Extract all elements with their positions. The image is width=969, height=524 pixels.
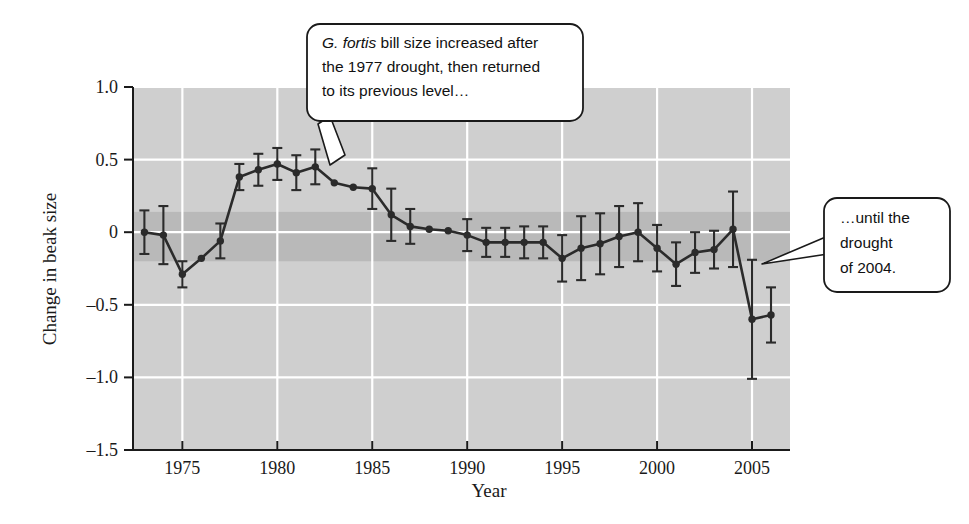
y-tick-label: –1.0 xyxy=(86,367,119,387)
data-point xyxy=(312,163,319,170)
data-point xyxy=(520,239,527,246)
y-tick-label: 0.5 xyxy=(96,150,119,170)
data-point xyxy=(388,211,395,218)
data-point xyxy=(445,227,452,234)
y-axis-title: Change in beak size xyxy=(39,193,60,345)
x-tick-label: 2000 xyxy=(639,458,675,478)
y-tick-label: –1.5 xyxy=(86,440,119,460)
data-point xyxy=(236,173,243,180)
data-point xyxy=(331,179,338,186)
y-axis-tick-labels: 1.00.50–0.5–1.0–1.5 xyxy=(86,77,119,460)
y-tick-label: 1.0 xyxy=(96,77,119,97)
data-point xyxy=(501,239,508,246)
data-point xyxy=(463,231,470,238)
chart-svg: 1.00.50–0.5–1.0–1.5 19751980198519901995… xyxy=(0,0,969,524)
data-point xyxy=(634,229,641,236)
data-point xyxy=(615,233,622,240)
callout1-line3: to its previous level… xyxy=(322,82,469,99)
data-point xyxy=(729,226,736,233)
plot-panel xyxy=(133,87,790,450)
data-point xyxy=(558,255,565,262)
data-point xyxy=(539,239,546,246)
data-point xyxy=(369,185,376,192)
callout2-line2: drought xyxy=(840,234,893,251)
x-tick-label: 1980 xyxy=(259,458,295,478)
x-axis-title: Year xyxy=(471,480,507,501)
data-point xyxy=(482,239,489,246)
data-point xyxy=(653,244,660,251)
data-point xyxy=(274,160,281,167)
data-point xyxy=(596,240,603,247)
callout1-species-name: G. fortis xyxy=(322,34,377,51)
x-tick-label: 2005 xyxy=(734,458,770,478)
data-point xyxy=(255,166,262,173)
data-point xyxy=(672,260,679,267)
x-axis-tick-labels: 1975198019851990199520002005 xyxy=(164,458,770,478)
x-tick-label: 1975 xyxy=(164,458,200,478)
data-point xyxy=(198,255,205,262)
x-tick-label: 1990 xyxy=(449,458,485,478)
data-point xyxy=(350,183,357,190)
callout2-line3: of 2004. xyxy=(840,259,896,276)
data-point xyxy=(217,237,224,244)
callout2-line1: …until the xyxy=(840,209,910,226)
data-point xyxy=(293,169,300,176)
callout1-line1-rest: bill size increased after xyxy=(376,34,538,51)
data-point xyxy=(179,271,186,278)
data-point xyxy=(141,229,148,236)
beak-size-chart-figure: 1.00.50–0.5–1.0–1.5 19751980198519901995… xyxy=(0,0,969,524)
y-tick-label: –0.5 xyxy=(86,295,119,315)
x-tick-label: 1985 xyxy=(354,458,390,478)
y-axis-ticks xyxy=(124,87,133,450)
data-point xyxy=(748,316,755,323)
data-point xyxy=(160,231,167,238)
data-point xyxy=(426,226,433,233)
data-point xyxy=(710,246,717,253)
callout1-line1: G. fortis bill size increased after xyxy=(322,34,538,51)
y-tick-label: 0 xyxy=(109,222,118,242)
data-point xyxy=(407,223,414,230)
data-point xyxy=(691,249,698,256)
data-point xyxy=(577,244,584,251)
x-tick-label: 1995 xyxy=(544,458,580,478)
callout1-line2: the 1977 drought, then returned xyxy=(322,58,540,75)
data-point xyxy=(767,311,774,318)
